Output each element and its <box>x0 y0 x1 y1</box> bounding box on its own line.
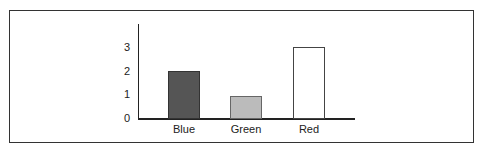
y-tick-label-0: 0 <box>124 113 132 124</box>
x-tick-label-red: Red <box>284 123 334 135</box>
y-tick-label-3: 3 <box>124 42 132 53</box>
y-tick-label-1: 1 <box>124 89 132 100</box>
x-tick-label-blue: Blue <box>159 123 209 135</box>
bar-red <box>293 47 325 119</box>
bar-blue <box>168 71 200 119</box>
x-tick-label-green: Green <box>221 123 271 135</box>
y-axis <box>138 24 139 119</box>
y-tick-label-2: 2 <box>124 66 132 77</box>
bar-green <box>230 96 262 119</box>
